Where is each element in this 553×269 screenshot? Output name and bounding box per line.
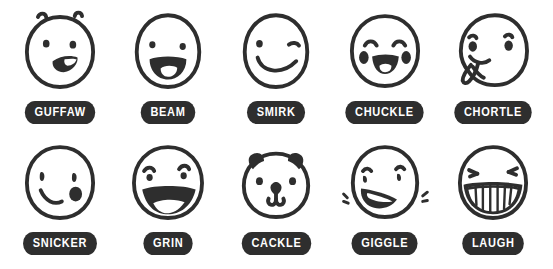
icon-cell-snicker[interactable]: SNICKER <box>6 133 114 262</box>
icon-cell-smirk[interactable]: SMIRK <box>222 4 330 133</box>
icon-label-pill[interactable]: LAUGH <box>462 232 524 255</box>
icon-cell-beam[interactable]: BEAM <box>114 4 222 133</box>
emoji-icon-sheet: GUFFAW BEAM <box>0 0 553 269</box>
laugh-face-icon <box>447 137 539 229</box>
icon-label-pill[interactable]: SMIRK <box>247 101 305 124</box>
icon-label-pill[interactable]: GRIN <box>143 232 193 255</box>
chortle-face-icon <box>447 6 539 98</box>
icon-label-pill[interactable]: CHUCKLE <box>346 101 424 124</box>
icon-label-pill[interactable]: CHORTLE <box>454 101 531 124</box>
icon-cell-chuckle[interactable]: CHUCKLE <box>331 4 439 133</box>
chuckle-face-icon <box>339 6 431 98</box>
icon-grid: GUFFAW BEAM <box>0 0 553 269</box>
icon-cell-cackle[interactable]: CACKLE <box>222 133 330 262</box>
smirk-face-icon <box>230 6 322 98</box>
icon-label-pill[interactable]: BEAM <box>141 101 196 124</box>
grin-face-icon <box>122 137 214 229</box>
cackle-bear-face-icon <box>230 137 322 229</box>
icon-label-pill[interactable]: SNICKER <box>23 232 97 255</box>
icon-cell-chortle[interactable]: CHORTLE <box>439 4 547 133</box>
icon-cell-giggle[interactable]: GIGGLE <box>331 133 439 262</box>
icon-label-pill[interactable]: GIGGLE <box>352 232 418 255</box>
snicker-face-icon <box>14 137 106 229</box>
giggle-face-icon <box>339 137 431 229</box>
icon-label-pill[interactable]: GUFFAW <box>25 101 96 124</box>
icon-label-pill[interactable]: CACKLE <box>242 232 311 255</box>
beam-face-icon <box>122 6 214 98</box>
icon-cell-laugh[interactable]: LAUGH <box>439 133 547 262</box>
icon-cell-guffaw[interactable]: GUFFAW <box>6 4 114 133</box>
icon-cell-grin[interactable]: GRIN <box>114 133 222 262</box>
guffaw-face-icon <box>14 6 106 98</box>
